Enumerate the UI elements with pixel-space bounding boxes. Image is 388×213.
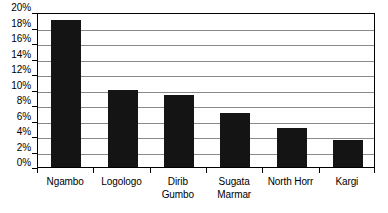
x-axis-category-label: North Horr (262, 176, 318, 189)
plot-area (37, 13, 375, 168)
y-axis-tick-label: 6% (17, 112, 31, 122)
x-axis-category-label: Logologo (93, 176, 149, 189)
x-axis-category-label: Kargi (319, 176, 375, 189)
bar (164, 95, 194, 167)
y-axis-tick-label: 8% (17, 96, 31, 106)
y-axis-tick-labels: 0%2%4%6%8%10%12%14%16%18%20% (0, 8, 31, 168)
x-axis-category-label: Dirib Gumbo (150, 176, 206, 201)
y-axis-tick-label: 4% (17, 127, 31, 137)
x-axis-tick-mark (206, 168, 207, 173)
bar (333, 140, 363, 167)
bar (277, 128, 307, 167)
y-axis-tick-label: 10% (11, 81, 31, 91)
x-axis-tick-mark (37, 168, 38, 173)
y-axis-tick-label: 16% (11, 34, 31, 44)
y-axis-tick-label: 2% (17, 143, 31, 153)
y-axis-tick-label: 0% (17, 158, 31, 168)
x-axis-tick-mark (150, 168, 151, 173)
x-axis-category-label: Sugata Marmar (206, 176, 262, 201)
x-axis-tick-mark (374, 168, 375, 173)
x-axis-tick-mark (319, 168, 320, 173)
x-axis-category-label: Ngambo (37, 176, 93, 189)
bar (51, 20, 81, 167)
x-axis-category-labels: NgamboLogologoDirib GumboSugata MarmarNo… (37, 176, 375, 213)
y-axis-tick-label: 18% (11, 19, 31, 29)
y-axis-tick-label: 14% (11, 50, 31, 60)
x-axis-tick-mark (262, 168, 263, 173)
bar-chart: 0%2%4%6%8%10%12%14%16%18%20% NgamboLogol… (0, 0, 388, 213)
x-axis-tick-marks (37, 168, 375, 173)
bar (220, 113, 250, 167)
bar (108, 90, 138, 168)
x-axis-tick-mark (93, 168, 94, 173)
bars-layer (38, 14, 374, 167)
y-axis-tick-label: 20% (11, 3, 31, 13)
y-axis-tick-label: 12% (11, 65, 31, 75)
